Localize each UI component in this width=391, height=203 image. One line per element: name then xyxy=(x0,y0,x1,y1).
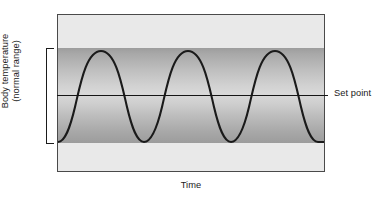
plot-area xyxy=(57,14,325,172)
y-axis-label-line-1: Body temperature xyxy=(0,13,11,129)
set-point-line xyxy=(57,95,328,96)
x-axis-label: Time xyxy=(57,180,325,190)
y-axis-label-line-2: (normal range) xyxy=(11,13,22,129)
set-point-label: Set point xyxy=(334,88,371,98)
y-axis-label: Body temperature (normal range) xyxy=(0,13,30,129)
normal-range-bracket xyxy=(46,48,54,144)
temperature-curve-path xyxy=(58,51,325,142)
temperature-curve xyxy=(58,15,325,172)
figure-container: Body temperature (normal range) Set poin… xyxy=(0,0,391,203)
